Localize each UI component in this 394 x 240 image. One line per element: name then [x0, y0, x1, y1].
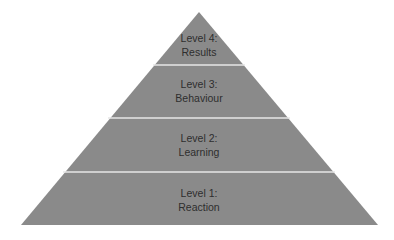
- level-3-label: Level 3: Behaviour: [139, 77, 259, 105]
- level-2-subtitle: Learning: [139, 145, 259, 159]
- level-2-label: Level 2: Learning: [139, 131, 259, 159]
- level-1-label: Level 1: Reaction: [139, 186, 259, 214]
- level-4-subtitle: Results: [139, 45, 259, 59]
- level-3-title: Level 3:: [139, 77, 259, 91]
- level-2-title: Level 2:: [139, 131, 259, 145]
- level-1-title: Level 1:: [139, 186, 259, 200]
- level-4-title: Level 4:: [139, 31, 259, 45]
- level-3-subtitle: Behaviour: [139, 91, 259, 105]
- level-4-label: Level 4: Results: [139, 31, 259, 59]
- level-1-subtitle: Reaction: [139, 200, 259, 214]
